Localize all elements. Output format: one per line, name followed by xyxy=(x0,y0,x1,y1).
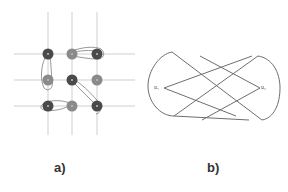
grid-diagram xyxy=(0,0,144,192)
vertex-label-u1: u₁ xyxy=(154,84,159,90)
vertex-label-u2: u₂ xyxy=(261,84,266,90)
grid-lines xyxy=(14,12,135,135)
caption-b: b) xyxy=(207,160,219,175)
diagram-panel-b: u₁ u₂ b) xyxy=(144,0,288,192)
diagram-panel-a: a) xyxy=(0,0,144,192)
caption-a: a) xyxy=(54,160,66,175)
